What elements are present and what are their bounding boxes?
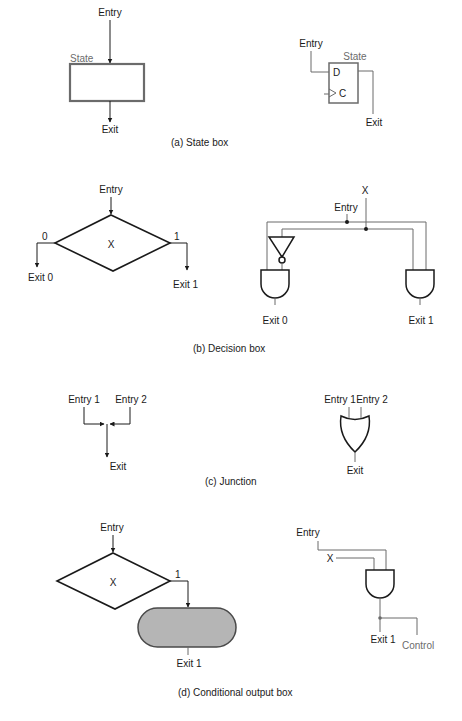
exit-1-label: Exit 1 [370, 634, 395, 645]
entry-1-label: Entry 1 [68, 394, 100, 405]
asm-state-box: Entry State Exit [70, 7, 144, 135]
and-gate-exit0-icon [261, 270, 289, 298]
circuit-decision: X Entry Exit 0 Exit 1 [261, 185, 434, 326]
control-label: Control [402, 640, 434, 651]
x-bus [282, 229, 413, 270]
entry-2-label: Entry 2 [356, 394, 388, 405]
state-rectangle [70, 64, 144, 101]
entry-1-label: Entry 1 [324, 394, 356, 405]
exit-label: Exit [366, 117, 383, 128]
x-label: X [327, 553, 334, 564]
entry-2-label: Entry 2 [115, 394, 147, 405]
entry-label: Entry [299, 38, 322, 49]
exit-1-label: Exit 1 [408, 315, 433, 326]
caption-d: (d) Conditional output box [178, 687, 293, 698]
caption-c: (c) Junction [205, 476, 257, 487]
exit-label: Exit [347, 465, 364, 476]
asm-diagram-canvas: Entry State Exit Entry State D C Exit (a… [0, 0, 462, 721]
entry-label: Entry [296, 527, 319, 538]
entry-label: Entry [334, 202, 357, 213]
x-junction-dot [364, 227, 368, 231]
entry-junction-dot [345, 220, 349, 224]
entry-label: Entry [98, 7, 121, 18]
branch-1-arrow [170, 581, 188, 607]
condition-label: X [110, 577, 117, 588]
exit-1-arrow [170, 243, 187, 270]
circuit-or-gate: Entry 1 Entry 2 Exit [324, 394, 388, 476]
exit-label: Exit [102, 124, 119, 135]
entry-label: Entry [100, 522, 123, 533]
exit-wire [358, 71, 373, 114]
conditional-output-box [138, 608, 236, 647]
caption-b: (b) Decision box [193, 343, 265, 354]
exit-label: Exit [110, 461, 127, 472]
control-wire [380, 618, 417, 635]
entry-wire [311, 51, 329, 72]
section-a-state-box: Entry State Exit Entry State D C Exit (a… [70, 7, 383, 148]
x-wire [336, 558, 374, 570]
d-pin-label: D [333, 67, 340, 78]
inverter-bubble-icon [279, 257, 285, 263]
state-label: State [70, 53, 94, 64]
branch-1-label: 1 [175, 569, 181, 580]
entry-1-arrow [84, 407, 104, 424]
exit-1-label: Exit 1 [173, 279, 198, 290]
and-gate-icon [366, 570, 394, 598]
section-d-conditional-output-box: Entry X 1 Exit 1 Entry X Exit 1 Control … [57, 522, 434, 698]
exit-1-label: Exit 1 [176, 658, 201, 669]
section-c-junction: Entry 1 Entry 2 Exit Entry 1 Entry 2 Exi… [68, 394, 388, 487]
condition-label: X [108, 239, 115, 250]
branch-1-label: 1 [174, 231, 180, 242]
asm-decision-box: Entry X 0 Exit 0 1 Exit 1 [28, 184, 198, 290]
asm-conditional-output: Entry X 1 Exit 1 [57, 522, 236, 669]
entry-label: Entry [99, 184, 122, 195]
exit-0-label: Exit 0 [28, 272, 53, 283]
exit-0-arrow [37, 243, 55, 267]
branch-0-label: 0 [42, 231, 48, 242]
entry-2-arrow [110, 407, 130, 424]
caption-a: (a) State box [171, 137, 228, 148]
circuit-flip-flop: Entry State D C Exit [299, 38, 382, 128]
or-gate-icon [341, 416, 370, 452]
section-b-decision-box: Entry X 0 Exit 0 1 Exit 1 X Entry Exi [28, 184, 434, 354]
circuit-and-gate: Entry X Exit 1 Control [296, 527, 434, 651]
and-gate-exit1-icon [406, 270, 434, 298]
c-pin-label: C [339, 88, 346, 99]
exit-0-label: Exit 0 [262, 315, 287, 326]
x-label: X [362, 185, 369, 196]
state-label: State [343, 51, 367, 62]
asm-junction: Entry 1 Entry 2 Exit [68, 394, 147, 472]
inverter-icon [269, 237, 294, 257]
